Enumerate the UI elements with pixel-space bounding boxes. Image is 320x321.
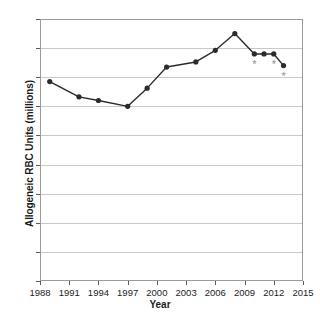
asterisk-annotation: * — [281, 70, 285, 81]
gridline — [41, 48, 302, 49]
y-tick-mark — [36, 106, 40, 107]
x-tick-mark — [215, 281, 216, 285]
plot-area — [40, 19, 303, 281]
gridline — [41, 252, 302, 253]
gridline — [41, 194, 302, 195]
y-tick-mark — [36, 223, 40, 224]
y-tick-mark — [36, 165, 40, 166]
y-tick-mark — [36, 252, 40, 253]
x-tick-mark — [157, 281, 158, 285]
gridline — [41, 165, 302, 166]
y-axis-title: Allogeneic RBC Units (millions) — [24, 29, 35, 279]
x-axis-title: Year — [0, 299, 320, 310]
x-tick-mark — [303, 281, 304, 285]
x-tick-mark — [274, 281, 275, 285]
x-tick-mark — [98, 281, 99, 285]
y-tick-mark — [36, 19, 40, 20]
asterisk-annotation: * — [272, 59, 276, 70]
y-tick-mark — [36, 194, 40, 195]
y-tick-mark — [36, 135, 40, 136]
x-tick-mark — [40, 281, 41, 285]
x-tick-mark — [69, 281, 70, 285]
gridline — [41, 223, 302, 224]
gridline — [41, 77, 302, 78]
y-tick-mark — [36, 77, 40, 78]
asterisk-annotation: * — [252, 59, 256, 70]
gridline — [41, 135, 302, 136]
chart-container: Allogeneic RBC Units (millions) 02468101… — [0, 0, 320, 321]
x-tick-mark — [186, 281, 187, 285]
x-tick-mark — [245, 281, 246, 285]
x-tick-label: 2015 — [286, 287, 320, 298]
x-tick-mark — [128, 281, 129, 285]
gridline — [41, 106, 302, 107]
y-tick-mark — [36, 48, 40, 49]
